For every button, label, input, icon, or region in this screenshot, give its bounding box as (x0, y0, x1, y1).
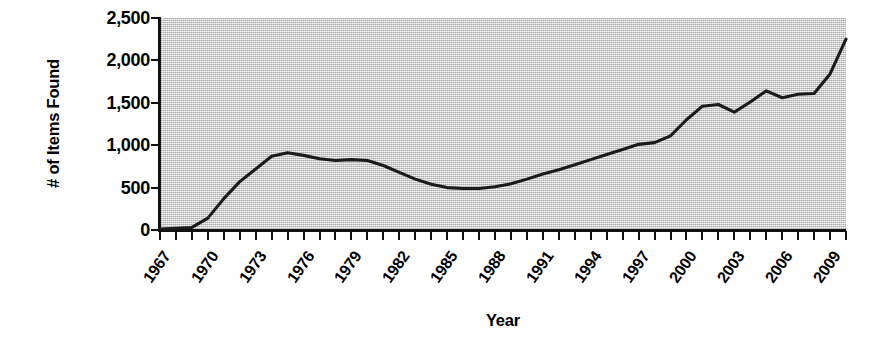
x-tick-label: 1988 (460, 248, 509, 307)
x-tick-label: 1997 (604, 248, 653, 307)
line-series (160, 18, 846, 230)
x-tick-label: 1985 (412, 248, 461, 307)
x-tick-mark (813, 231, 815, 240)
x-tick-mark (446, 231, 448, 240)
x-tick-mark (478, 231, 480, 240)
y-tick-mark (151, 144, 160, 146)
x-tick-label: 1967 (125, 248, 174, 307)
x-tick-mark (510, 231, 512, 240)
x-tick-mark (845, 231, 847, 240)
x-tick-mark (334, 231, 336, 240)
x-tick-mark (654, 231, 656, 240)
x-tick-mark (287, 231, 289, 240)
x-tick-label: 1976 (269, 248, 318, 307)
x-tick-label: 1970 (173, 248, 222, 307)
x-tick-label: 2003 (700, 248, 749, 307)
x-tick-mark (717, 231, 719, 240)
y-tick-label: 500 (30, 179, 150, 197)
x-tick-mark (749, 231, 751, 240)
x-tick-mark (271, 231, 273, 240)
x-tick-mark (223, 231, 225, 240)
x-tick-label: 1979 (317, 248, 366, 307)
x-tick-mark (797, 231, 799, 240)
x-tick-mark (781, 231, 783, 240)
x-tick-mark (319, 231, 321, 240)
x-tick-label: 1991 (508, 248, 557, 307)
plot-area (160, 18, 846, 230)
x-tick-mark (765, 231, 767, 240)
x-tick-mark (175, 231, 177, 240)
x-tick-mark (590, 231, 592, 240)
y-tick-label: 2,500 (30, 9, 150, 27)
x-tick-mark (542, 231, 544, 240)
x-tick-mark (255, 231, 257, 240)
x-tick-label: 2009 (795, 248, 844, 307)
y-tick-mark (151, 17, 160, 19)
y-tick-mark (151, 102, 160, 104)
y-tick-mark (151, 187, 160, 189)
x-tick-mark (430, 231, 432, 240)
x-tick-mark (622, 231, 624, 240)
x-axis-title: Year (160, 311, 846, 330)
x-tick-mark (159, 231, 161, 240)
series-polyline (160, 39, 846, 229)
chart-figure: # of Items Found 2,5002,0001,5001,000500… (0, 0, 886, 344)
x-tick-mark (670, 231, 672, 240)
x-tick-mark (239, 231, 241, 240)
x-tick-label: 2000 (652, 248, 701, 307)
x-tick-mark (558, 231, 560, 240)
x-tick-mark (685, 231, 687, 240)
y-tick-label: 1,000 (30, 136, 150, 154)
x-tick-mark (303, 231, 305, 240)
x-tick-mark (207, 231, 209, 240)
x-tick-mark (191, 231, 193, 240)
x-tick-label: 2006 (747, 248, 796, 307)
x-tick-mark (350, 231, 352, 240)
x-tick-mark (462, 231, 464, 240)
x-tick-mark (366, 231, 368, 240)
y-axis-tick-labels: 2,5002,0001,5001,0005000 (26, 0, 150, 244)
x-tick-mark (606, 231, 608, 240)
x-tick-mark (382, 231, 384, 240)
x-tick-label: 1982 (365, 248, 414, 307)
y-tick-label: 0 (30, 221, 150, 239)
x-tick-mark (638, 231, 640, 240)
x-tick-label: 1994 (556, 248, 605, 307)
y-tick-label: 1,500 (30, 94, 150, 112)
x-tick-mark (733, 231, 735, 240)
x-tick-mark (701, 231, 703, 240)
x-tick-mark (398, 231, 400, 240)
x-tick-mark (829, 231, 831, 240)
x-tick-label: 1973 (221, 248, 270, 307)
x-tick-mark (414, 231, 416, 240)
x-tick-mark (574, 231, 576, 240)
y-tick-mark (151, 59, 160, 61)
x-tick-mark (494, 231, 496, 240)
x-tick-mark (526, 231, 528, 240)
y-tick-label: 2,000 (30, 51, 150, 69)
